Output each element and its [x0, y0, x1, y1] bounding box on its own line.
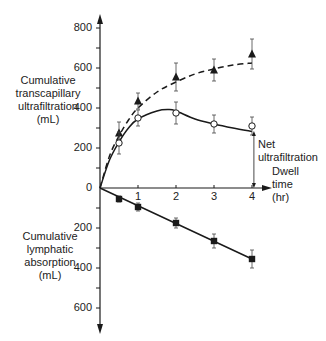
- x-axis-arrow-icon: [262, 185, 272, 191]
- annotation-line: Net: [258, 138, 318, 151]
- y-axis-arrow-down-icon: [97, 324, 103, 334]
- x-tick-label: 1: [132, 190, 144, 202]
- y-label-lower-line: lymphatic: [4, 243, 96, 256]
- x-tick-label: 2: [170, 190, 182, 202]
- annotation-line: ultrafiltration: [258, 151, 318, 164]
- circle-marker-icon: [249, 123, 255, 129]
- y-tick-label: 200: [64, 221, 92, 233]
- y-tick-label: 200: [64, 141, 92, 153]
- y-tick-label-zero: 0: [64, 181, 92, 193]
- triangle-marker-icon: [248, 50, 256, 58]
- net-ultrafiltration-annotation: Net ultrafiltration: [258, 138, 318, 164]
- x-label-line: (hr): [272, 191, 299, 204]
- y-tick-label: 400: [64, 261, 92, 273]
- y-label-upper-line: Cumulative: [2, 74, 94, 87]
- x-label-line: time: [272, 178, 299, 191]
- y-axis-arrow-up-icon: [97, 14, 103, 24]
- y-label-upper-line: transcapillary: [2, 87, 94, 100]
- circle-marker-icon: [173, 110, 179, 116]
- x-tick-label: 4: [246, 190, 258, 202]
- circle-marker-icon: [135, 115, 141, 121]
- y-tick-label: 800: [64, 21, 92, 33]
- x-axis-label: Dwell time (hr): [272, 165, 299, 204]
- square-marker-icon: [249, 256, 255, 262]
- circle-marker-icon: [116, 140, 122, 146]
- y-label-upper-line: (mL): [2, 113, 94, 126]
- triangle-marker-icon: [134, 97, 142, 105]
- square-marker-icon: [211, 238, 217, 244]
- y-tick-label: 600: [64, 301, 92, 313]
- square-marker-icon: [135, 204, 141, 210]
- x-label-line: Dwell: [272, 165, 299, 178]
- chart: Cumulative transcapillary ultrafiltratio…: [0, 0, 326, 341]
- y-tick-label: 400: [64, 101, 92, 113]
- y-axis-label-upper: Cumulative transcapillary ultrafiltratio…: [2, 74, 94, 126]
- triangle-marker-icon: [172, 73, 180, 81]
- y-axis-label-lower: Cumulative lymphatic absorption (mL): [4, 230, 96, 282]
- circle-marker-icon: [211, 121, 217, 127]
- y-tick-label: 600: [64, 61, 92, 73]
- arrow-up-icon: [252, 131, 256, 136]
- square-marker-icon: [173, 220, 179, 226]
- x-tick-label: 3: [208, 190, 220, 202]
- square-marker-icon: [116, 196, 122, 202]
